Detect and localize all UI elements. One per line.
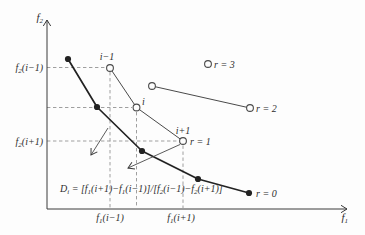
r0-point-4 — [195, 176, 201, 182]
label-r1: r = 1 — [190, 136, 211, 147]
tick-label-f1-i-plus-1: f1(i+1) — [167, 212, 195, 225]
point-r3 — [205, 61, 212, 68]
point-i-plus-1 — [180, 138, 187, 145]
direction-arrow-left — [91, 128, 108, 155]
point-i-minus-1 — [107, 65, 114, 72]
label-i-plus-1: i+1 — [176, 125, 191, 136]
point-r2-right — [247, 105, 254, 112]
y-axis-label: f2 — [36, 11, 43, 25]
point-r2-left — [149, 83, 156, 90]
label-r2: r = 2 — [256, 103, 277, 114]
label-i: i — [142, 96, 145, 107]
crowding-distance-formula: Di = [f1(i+1)−f1(i−1)]/[f2(i−1)−f2(i+1)] — [59, 183, 223, 196]
front-r0-line — [68, 59, 249, 193]
label-r0: r = 0 — [256, 188, 277, 199]
front-r2-line — [152, 86, 250, 108]
r0-point-1 — [65, 56, 71, 62]
tick-label-f2-i-minus-1: f2(i−1) — [16, 62, 44, 75]
label-i-minus-1: i−1 — [100, 51, 115, 62]
point-i — [133, 104, 140, 111]
r0-point-2 — [94, 104, 100, 110]
tick-label-f2-i-plus-1: f2(i+1) — [16, 136, 44, 149]
x-axis-label: f1 — [341, 211, 348, 225]
r0-point-3 — [139, 148, 145, 154]
front-r0-points — [65, 56, 252, 196]
pareto-ranking-figure: f2 f1 f2(i−1) f2(i+1) f1(i−1) f1(i+1) i−… — [0, 0, 365, 235]
direction-arrow-right — [128, 145, 180, 169]
r0-point-5 — [246, 190, 252, 196]
label-r3: r = 3 — [214, 59, 235, 70]
tick-label-f1-i-minus-1: f1(i−1) — [96, 212, 124, 225]
